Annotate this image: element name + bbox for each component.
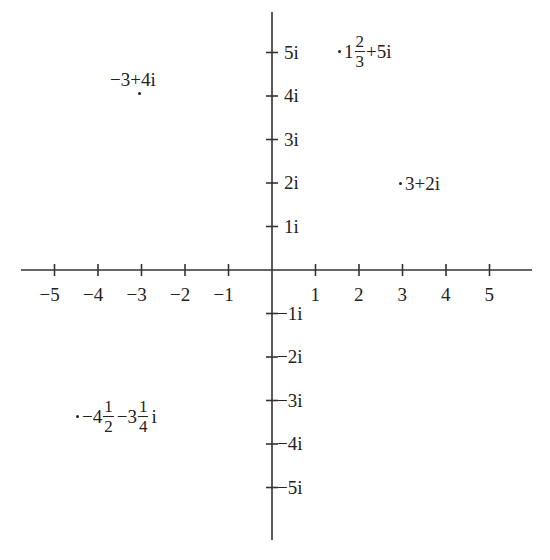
- fraction-numerator: 1: [138, 398, 149, 417]
- point-d-dot: [76, 415, 79, 418]
- point-d-re-fraction: 1 2: [103, 398, 114, 435]
- point-b-whole: 1: [344, 42, 354, 61]
- point-c-dot: [399, 182, 402, 185]
- point-d-im-whole: −3: [117, 407, 137, 426]
- point-label-a: −3+4i: [110, 70, 156, 89]
- point-c-text: 3+2i: [405, 174, 440, 193]
- fraction-numerator: 1: [103, 398, 114, 417]
- real-tick-label: 3: [398, 285, 408, 304]
- real-tick-label: 2: [354, 285, 364, 304]
- imaginary-tick-label: −3i: [277, 391, 303, 410]
- point-d-im-fraction: 1 4: [138, 398, 149, 435]
- point-b-suffix: +5i: [366, 42, 392, 61]
- fraction-denominator: 4: [139, 417, 148, 435]
- point-label-b: 1 2 3 +5i: [338, 33, 392, 70]
- fraction-numerator: 2: [355, 33, 366, 52]
- point-d-re-whole: −4: [82, 407, 102, 426]
- real-tick-label: −2: [170, 285, 190, 304]
- imaginary-tick-label: −1i: [277, 304, 303, 323]
- imaginary-tick-label: 2i: [284, 173, 299, 192]
- real-tick-label: −5: [40, 285, 60, 304]
- fraction-denominator: 2: [104, 417, 113, 435]
- imaginary-tick-label: 1i: [284, 217, 299, 236]
- point-d-im-suffix: i: [151, 407, 156, 426]
- point-label-d: −4 1 2 −3 1 4 i: [76, 398, 157, 435]
- point-b-fraction: 2 3: [355, 33, 366, 70]
- point-label-c: 3+2i: [399, 174, 440, 193]
- imaginary-tick-label: 4i: [284, 86, 299, 105]
- fraction-denominator: 3: [356, 52, 365, 70]
- real-tick-label: 1: [311, 285, 321, 304]
- imaginary-tick-label: −5i: [277, 478, 303, 497]
- real-tick-label: 4: [441, 285, 451, 304]
- imaginary-tick-label: 5i: [284, 43, 299, 62]
- point-b-dot: [338, 50, 341, 53]
- real-tick-label: −3: [127, 285, 147, 304]
- real-tick-label: −4: [83, 285, 103, 304]
- imaginary-tick-label: 3i: [284, 130, 299, 149]
- real-tick-label: 5: [485, 285, 495, 304]
- complex-plane-axes: [0, 0, 550, 560]
- imaginary-tick-label: −4i: [277, 434, 303, 453]
- real-tick-label: −1: [214, 285, 234, 304]
- imaginary-tick-label: −2i: [277, 347, 303, 366]
- point-a-dot: [138, 92, 141, 95]
